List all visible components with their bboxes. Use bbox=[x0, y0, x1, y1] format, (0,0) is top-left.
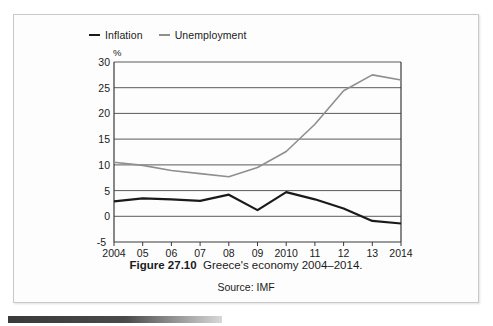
figure-caption: Figure 27.10 Greece's economy 2004–2014. bbox=[14, 259, 478, 271]
series-line-inflation bbox=[114, 192, 401, 223]
gridlines bbox=[114, 62, 401, 216]
figure-caption-text: Greece's economy 2004–2014. bbox=[203, 259, 362, 271]
figure-frame: Inflation Unemployment % 30 25 20 15 10 … bbox=[13, 14, 479, 303]
page-footer-bar bbox=[8, 316, 222, 323]
series-line-unemployment bbox=[114, 75, 401, 177]
figure-source: Source: IMF bbox=[14, 281, 478, 293]
x-tick-marks bbox=[114, 242, 401, 246]
figure-caption-label: Figure 27.10 bbox=[130, 259, 197, 271]
